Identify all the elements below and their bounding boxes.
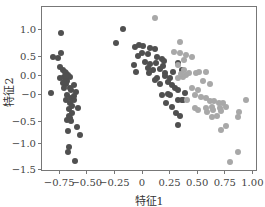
x-tick-label: 1.00 [241,177,263,188]
data-point [243,97,249,103]
data-point [223,104,229,110]
y-tick-label: −0.5 [12,116,36,127]
data-point [65,128,71,134]
data-point [207,81,213,87]
scatter-chart: −0.75−0.50−0.2500.250.500.751.00 1.00.50… [0,0,265,207]
data-point [165,91,171,97]
data-point [192,105,198,111]
data-point [200,78,206,84]
data-point [181,57,187,63]
data-point [74,124,80,130]
data-point [196,69,202,75]
data-point [61,85,67,91]
data-point [182,90,188,96]
data-point [145,51,151,57]
data-point [113,40,119,46]
data-point [175,62,181,68]
data-point [146,70,152,76]
y-tick-label: −0 [21,89,36,100]
x-tick-label: −0.75 [44,177,75,188]
data-point [210,107,216,113]
data-point [77,132,83,138]
data-point [152,46,158,52]
x-tick-label: −0.50 [71,177,102,188]
data-point [131,62,137,68]
data-point [177,50,183,56]
y-tick-label: 1.0 [20,24,36,35]
data-point [189,85,195,91]
data-point [160,63,166,69]
y-tick-label: 0.0 [20,70,36,81]
y-tick-mark [38,75,41,76]
data-point [71,93,77,99]
data-point [169,104,175,110]
data-point [72,158,78,164]
x-tick-label: −0.25 [99,177,130,188]
x-axis-label: 特征1 [135,192,164,207]
data-point [189,54,195,60]
data-point [235,149,241,155]
data-point [55,55,61,61]
data-point [218,127,224,133]
y-axis-label: 特征2 [0,78,16,107]
data-point [157,81,163,87]
x-tick-mark [142,171,143,174]
data-point [69,103,75,109]
x-tick-mark [169,171,170,174]
data-point [186,70,192,76]
data-point [177,113,183,119]
data-point [170,69,176,75]
y-tick-mark [38,29,41,30]
y-tick-label: 0.5 [20,51,36,62]
x-tick-label: 0.25 [158,177,180,188]
data-point [227,159,233,165]
data-point [67,115,73,121]
y-tick-mark [38,169,41,170]
data-point [152,15,158,21]
x-tick-mark [86,171,87,174]
data-point [65,149,71,155]
x-tick-mark [252,171,253,174]
data-point [178,71,184,77]
x-tick-mark [224,171,225,174]
data-point [63,97,69,103]
data-point [140,43,146,49]
data-point [120,26,126,32]
x-tick-label: 0.50 [186,177,208,188]
y-tick-mark [38,121,41,122]
data-point [48,90,54,96]
y-tick-mark [38,94,41,95]
y-tick-mark [38,56,41,57]
data-point [61,79,67,85]
data-point [209,114,215,120]
x-tick-label: 0.75 [214,177,236,188]
data-point [214,113,220,119]
data-point [217,105,223,111]
data-point [133,69,139,75]
x-tick-mark [114,171,115,174]
data-point [67,85,73,91]
x-tick-mark [197,171,198,174]
data-point [175,87,181,93]
y-tick-label: −1.0 [12,138,36,149]
data-point [135,53,141,59]
x-tick-label: 0 [139,177,145,188]
data-point [58,30,64,36]
data-point [75,105,81,111]
x-tick-mark [59,171,60,174]
data-point [203,69,209,75]
y-tick-mark [38,143,41,144]
data-point [184,97,190,103]
data-point [159,92,165,98]
y-tick-label: −1.5 [12,164,36,175]
data-point [177,39,183,45]
data-point [235,114,241,120]
data-point [175,122,181,128]
